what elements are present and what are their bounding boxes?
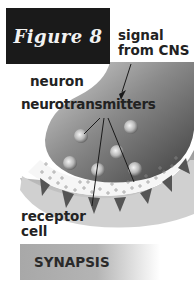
figure-title-box: Figure 8	[6, 8, 110, 64]
footer-banner: SYNAPSIS	[20, 244, 160, 280]
figure-title: Figure 8	[6, 26, 110, 47]
footer-label: SYNAPSIS	[34, 254, 110, 270]
label-receptor-line1: receptor	[21, 209, 86, 224]
label-signal-line2: from CNS	[118, 43, 190, 58]
label-neuron: neuron	[30, 74, 84, 89]
label-signal-from-cns: signal from CNS	[118, 28, 190, 58]
label-neurotransmitters: neurotransmitters	[21, 97, 156, 112]
label-receptor-cell: receptor cell	[21, 209, 86, 239]
label-receptor-line2: cell	[21, 224, 86, 239]
label-signal-line1: signal	[118, 28, 190, 43]
